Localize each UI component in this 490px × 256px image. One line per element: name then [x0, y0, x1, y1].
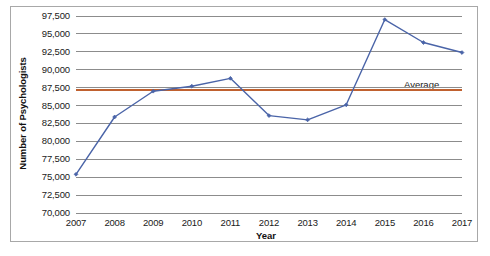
line-chart: Number of Psychologists Year Average 70,…	[0, 0, 490, 256]
plot-canvas	[0, 0, 490, 256]
data-series-line	[76, 20, 462, 175]
data-point-markers	[74, 18, 464, 177]
